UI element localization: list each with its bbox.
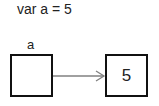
value-text: 5 — [122, 66, 131, 86]
value-box: 5 — [105, 54, 148, 97]
